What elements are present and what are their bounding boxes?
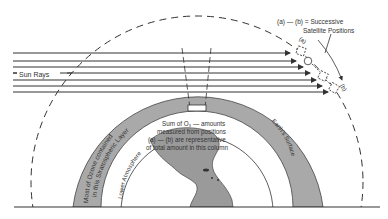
position-a-label: (a) [298, 36, 307, 45]
column-note-line-3: (a) — (b) are representative [148, 136, 226, 144]
diagram-canvas: Sun Rays (a) — (b) = Successive Satellit… [0, 0, 388, 219]
legend-line-2: Satellite Positions [303, 27, 355, 34]
legend-pointer [325, 34, 331, 53]
position-b-label: (b) [339, 83, 348, 92]
legend-line-1: (a) — (b) = Successive [277, 18, 344, 26]
ozone-measurement-diagram: Sun Rays (a) — (b) = Successive Satellit… [0, 0, 388, 219]
column-note-line-2: measured from positions [157, 128, 226, 136]
column-note-line-4: of total amount in this column [146, 144, 228, 151]
island [203, 169, 209, 172]
sun-rays-label: Sun Rays [19, 71, 50, 79]
lower-atmosphere-label: Lower Atmosphere [117, 150, 142, 199]
column-note-line-1: Sum of O₃ — amounts [162, 120, 225, 127]
measurement-column-box [188, 105, 206, 111]
